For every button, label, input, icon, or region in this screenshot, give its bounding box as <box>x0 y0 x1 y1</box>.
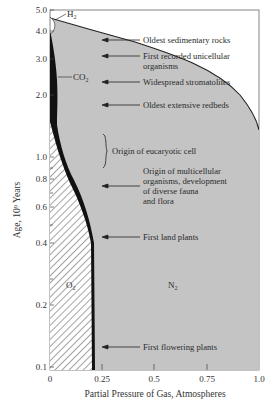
x-tick-0: 0 <box>48 374 53 384</box>
x-axis-title: Partial Pressure of Gas, Atmospheres <box>84 389 225 399</box>
annot-unicellular-2: organisms <box>143 61 179 71</box>
y-tick-1: 1.0 <box>36 152 48 162</box>
y-tick-2: 2.0 <box>36 90 48 100</box>
h2-label: H₂ <box>67 9 77 19</box>
y-tick-labels: 5.0 4.0 3.0 2.0 1.0 0.8 0.6 0.4 0.2 0.1 <box>36 5 48 372</box>
y-tick-01: 0.1 <box>36 362 47 372</box>
y-axis-title: Age, 10⁹ Years <box>12 181 22 238</box>
y-tick-04: 0.4 <box>36 238 48 248</box>
y-tick-5: 5.0 <box>36 5 48 15</box>
x-tick-05: 0.5 <box>148 374 160 384</box>
y-tick-06: 0.6 <box>36 202 48 212</box>
y-tick-3: 3.0 <box>36 54 48 64</box>
y-tick-02: 0.2 <box>36 300 47 310</box>
annot-eucaryotic: Origin of eucaryotic cell <box>112 146 197 156</box>
annot-unicellular-1: First recorded unicellular <box>143 51 230 61</box>
o2-label: O₂ <box>66 280 76 290</box>
annot-multicellular-4: and flora <box>143 196 174 206</box>
co2-label: CO₂ <box>73 72 89 82</box>
annot-redbeds: Oldest extensive redbeds <box>143 100 230 110</box>
x-tick-1: 1.0 <box>253 374 265 384</box>
annot-multicellular-3: of diverse fauna <box>143 186 199 196</box>
annot-stromatolites: Widespread stromatolites <box>143 77 231 87</box>
x-tick-labels: 0 0.25 0.5 0.75 1.0 <box>48 374 265 384</box>
annot-sedimentary-rocks: Oldest sedimentary rocks <box>143 35 231 45</box>
gas-evolution-chart: 5.0 4.0 3.0 2.0 1.0 0.8 0.6 0.4 0.2 0.1 … <box>0 0 271 408</box>
y-tick-08: 0.8 <box>36 174 48 184</box>
x-tick-075: 0.75 <box>199 374 215 384</box>
n2-label: N₂ <box>168 280 178 290</box>
annot-flowering-plants: First flowering plants <box>143 342 218 352</box>
annot-land-plants: First land plants <box>143 232 199 242</box>
annot-multicellular-1: Origin of multicellular <box>143 166 221 176</box>
y-tick-4: 4.0 <box>36 26 48 36</box>
x-tick-025: 0.25 <box>94 374 110 384</box>
annot-multicellular-2: organisms, development <box>143 176 227 186</box>
